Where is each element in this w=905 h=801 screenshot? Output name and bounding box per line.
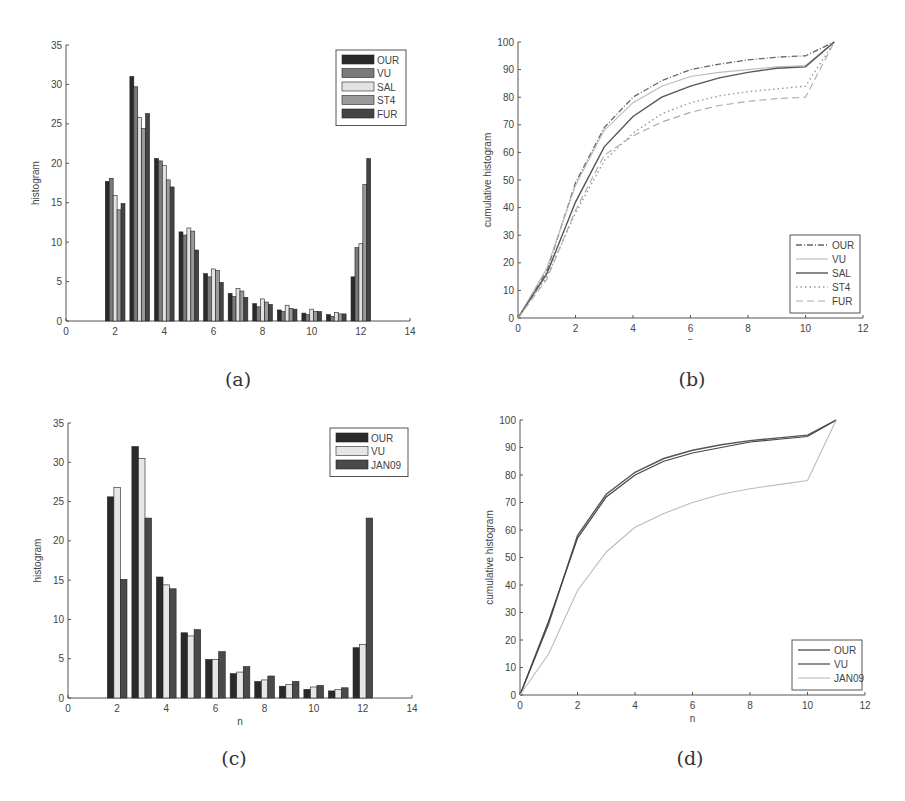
bar xyxy=(279,686,286,698)
legend-label: VU xyxy=(834,659,848,670)
legend-label: FUR xyxy=(377,109,398,120)
bar xyxy=(292,682,299,699)
bar xyxy=(206,660,213,699)
bar xyxy=(359,244,363,321)
legend-label: ST4 xyxy=(377,95,396,106)
bar xyxy=(261,680,268,698)
legend-label: JAN09 xyxy=(371,460,401,471)
bar xyxy=(138,458,145,698)
x-tick-label: 14 xyxy=(404,326,416,337)
y-tick-label: 80 xyxy=(505,470,517,481)
x-tick-label: 6 xyxy=(688,323,694,334)
bar xyxy=(243,667,250,698)
bar xyxy=(244,297,248,321)
y-tick-label: 40 xyxy=(505,580,517,591)
bar xyxy=(335,689,342,698)
bar xyxy=(130,77,134,321)
bar xyxy=(363,185,367,321)
y-axis-label: histogram xyxy=(32,539,43,583)
legend-swatch xyxy=(336,433,368,442)
series-line xyxy=(520,420,836,695)
y-axis-label: histogram xyxy=(30,161,41,205)
x-axis-label: n xyxy=(237,716,243,727)
bar xyxy=(170,187,174,321)
legend-label: OUR xyxy=(832,240,854,251)
x-tick-label: 12 xyxy=(859,700,871,711)
x-tick-label: 4 xyxy=(162,326,168,337)
y-tick-label: 100 xyxy=(499,415,516,426)
bar xyxy=(114,487,121,698)
series-line xyxy=(518,42,834,318)
bar xyxy=(132,447,139,698)
y-tick-label: 60 xyxy=(505,525,517,536)
y-tick-label: 10 xyxy=(505,662,517,673)
y-tick-label: 0 xyxy=(56,316,62,327)
bar xyxy=(253,304,257,321)
x-axis-label: n xyxy=(690,713,696,724)
cumulative-chart-d: 0246810120102030405060708090100ncumulati… xyxy=(450,400,905,730)
lines xyxy=(518,42,834,318)
bar xyxy=(326,315,330,321)
legend-label: FUR xyxy=(832,296,853,307)
bar xyxy=(113,196,117,321)
bar xyxy=(117,210,121,321)
bar xyxy=(215,271,219,321)
legend: OURVUSALST4FUR xyxy=(336,50,406,126)
bar xyxy=(268,676,275,698)
bar xyxy=(187,228,191,321)
y-tick-label: 10 xyxy=(503,285,515,296)
histogram-chart-a: 0246810121405101520253035nhistogramOURVU… xyxy=(0,0,450,340)
y-tick-label: 25 xyxy=(51,118,63,129)
bar xyxy=(237,672,244,698)
y-tick-label: 5 xyxy=(56,276,62,287)
legend-label: SAL xyxy=(377,82,396,93)
bar xyxy=(328,691,335,698)
y-tick-label: 40 xyxy=(503,202,515,213)
legend-label: OUR xyxy=(834,645,856,656)
y-tick-label: 10 xyxy=(51,237,63,248)
bar xyxy=(353,648,360,698)
legend-label: ST4 xyxy=(832,282,851,293)
series-line xyxy=(518,42,834,318)
bar xyxy=(330,316,334,321)
legend-label: VU xyxy=(832,254,846,265)
bar xyxy=(286,685,293,698)
bar xyxy=(194,630,201,698)
x-tick-label: 12 xyxy=(357,703,369,714)
bar xyxy=(156,577,163,698)
bar xyxy=(304,689,311,698)
y-tick-label: 0 xyxy=(510,690,516,701)
bar xyxy=(342,688,349,698)
bar xyxy=(338,314,342,321)
bar xyxy=(107,497,114,698)
bar xyxy=(219,652,226,698)
lines xyxy=(520,420,836,695)
x-axis-label: n xyxy=(688,336,694,340)
legend-label: OUR xyxy=(371,433,393,444)
y-tick-label: 30 xyxy=(505,607,517,618)
x-tick-label: 4 xyxy=(632,700,638,711)
legend-swatch xyxy=(342,96,374,105)
y-tick-label: 20 xyxy=(53,535,65,546)
series-line xyxy=(518,42,834,318)
bar xyxy=(310,687,317,698)
y-tick-label: 70 xyxy=(503,119,515,130)
y-tick-label: 5 xyxy=(58,653,64,664)
bar xyxy=(232,297,236,321)
bar xyxy=(121,204,125,321)
x-tick-label: 12 xyxy=(857,323,869,334)
bar xyxy=(293,309,297,321)
bar xyxy=(191,231,195,321)
bar xyxy=(162,166,166,321)
bar xyxy=(236,289,240,321)
bar xyxy=(120,579,127,698)
cumulative-chart-b: 0246810120102030405060708090100ncumulati… xyxy=(450,0,905,340)
y-tick-label: 0 xyxy=(508,313,514,324)
x-tick-label: 10 xyxy=(306,326,318,337)
legend: OURVUSALST4FUR xyxy=(790,235,860,313)
legend: OURVUJAN09 xyxy=(330,428,408,477)
bar xyxy=(228,293,232,321)
bar xyxy=(183,235,187,321)
bar xyxy=(255,682,262,699)
x-tick-label: 0 xyxy=(517,700,523,711)
